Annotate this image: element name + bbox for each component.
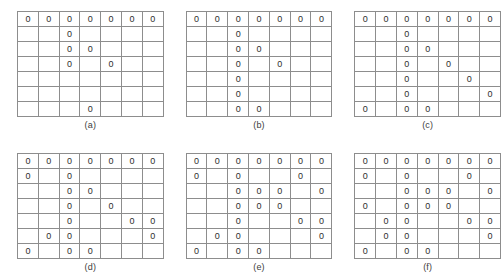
grid-cell-marked: 0 (355, 154, 376, 169)
grid-cell-marked: 0 (417, 154, 438, 169)
grid-cell-empty (459, 57, 480, 72)
grid-cell-empty (18, 199, 39, 214)
grid-cell-empty (101, 72, 122, 87)
grid-cell-marked: 0 (396, 244, 417, 259)
figure-panel-e: 00000000000000000000000000 (e) (186, 153, 333, 272)
grid-cell-marked: 0 (101, 199, 122, 214)
grid-cell-empty (186, 199, 207, 214)
grid-cell-empty (121, 169, 142, 184)
grid-cell-empty (121, 199, 142, 214)
grid-row: 0 (186, 27, 332, 42)
grid-cell-empty (142, 72, 163, 87)
grid-cell-marked: 0 (396, 154, 417, 169)
grid-cell-marked: 0 (228, 102, 249, 117)
grid-cell-empty (80, 57, 101, 72)
grid-cell-empty (269, 229, 290, 244)
grid-cell-empty (269, 169, 290, 184)
grid-cell-marked: 0 (18, 244, 39, 259)
grid-row: 0000 (355, 199, 501, 214)
grid-row: 0000000 (18, 12, 164, 27)
grid-cell-empty (249, 72, 270, 87)
grid-row: 0000000 (186, 12, 332, 27)
grid-cell-empty (480, 27, 501, 42)
grid-cell-marked: 0 (59, 214, 80, 229)
grid-cell-marked: 0 (228, 42, 249, 57)
grid-cell-marked: 0 (80, 244, 101, 259)
grid-cell-marked: 0 (228, 27, 249, 42)
figure-caption-d: (d) (85, 262, 97, 272)
grid-cell-empty (101, 229, 122, 244)
grid-cell-empty (18, 27, 39, 42)
grid-cell-empty (142, 244, 163, 259)
figure-panel-d: 0000000000000000000000 (d) (17, 153, 164, 272)
grid-cell-marked: 0 (376, 214, 397, 229)
grid-d: 0000000000000000000000 (17, 153, 164, 259)
grid-f: 0000000000000000000000000000 (354, 153, 501, 259)
grid-row: 00 (18, 57, 164, 72)
figure-caption-c: (c) (422, 120, 433, 130)
grid-cell-marked: 0 (396, 184, 417, 199)
grid-cell-marked: 0 (438, 57, 459, 72)
grid-cell-marked: 0 (18, 154, 39, 169)
grid-cell-marked: 0 (80, 102, 101, 117)
grid-cell-empty (311, 72, 332, 87)
grid-row: 00 (18, 42, 164, 57)
grid-cell-marked: 0 (38, 12, 59, 27)
grid-cell-empty (269, 214, 290, 229)
grid-cell-marked: 0 (228, 229, 249, 244)
grid-cell-marked: 0 (290, 12, 311, 27)
grid-cell-marked: 0 (101, 57, 122, 72)
figure-caption-a: (a) (85, 120, 97, 130)
grid-cell-empty (459, 42, 480, 57)
grid-cell-empty (417, 57, 438, 72)
grid-cell-empty (18, 184, 39, 199)
grid-cell-marked: 0 (207, 229, 228, 244)
grid-cell-empty (142, 57, 163, 72)
grid-cell-marked: 0 (480, 229, 501, 244)
grid-row: 000 (355, 244, 501, 259)
grid-cell-marked: 0 (396, 102, 417, 117)
grid-cell-marked: 0 (396, 87, 417, 102)
figure-caption-f: (f) (423, 262, 432, 272)
grid-cell-empty (376, 169, 397, 184)
grid-cell-empty (290, 244, 311, 259)
grid-cell-empty (59, 102, 80, 117)
grid-cell-marked: 0 (290, 154, 311, 169)
grid-cell-empty (249, 169, 270, 184)
grid-cell-marked: 0 (459, 169, 480, 184)
grid-cell-empty (80, 27, 101, 42)
grid-cell-marked: 0 (355, 12, 376, 27)
grid-cell-empty (355, 57, 376, 72)
grid-cell-empty (480, 169, 501, 184)
grid-cell-marked: 0 (290, 169, 311, 184)
grid-cell-empty (186, 229, 207, 244)
grid-cell-empty (269, 244, 290, 259)
grid-cell-empty (186, 27, 207, 42)
grid-cell-marked: 0 (228, 72, 249, 87)
grid-cell-empty (438, 214, 459, 229)
grid-cell-empty (38, 184, 59, 199)
grid-cell-marked: 0 (459, 214, 480, 229)
grid-cell-empty (207, 214, 228, 229)
grid-e: 00000000000000000000000000 (186, 153, 333, 259)
grid-cell-marked: 0 (311, 214, 332, 229)
grid-cell-empty (290, 229, 311, 244)
grid-cell-empty (355, 72, 376, 87)
grid-cell-empty (186, 102, 207, 117)
grid-cell-marked: 0 (228, 87, 249, 102)
grid-cell-marked: 0 (396, 12, 417, 27)
grid-cell-empty (269, 72, 290, 87)
grid-cell-empty (459, 184, 480, 199)
grid-cell-empty (121, 229, 142, 244)
grid-row: 0 (18, 27, 164, 42)
grid-cell-marked: 0 (59, 27, 80, 42)
grid-cell-marked: 0 (311, 12, 332, 27)
grid-cell-marked: 0 (80, 12, 101, 27)
grid-cell-empty (207, 199, 228, 214)
grid-cell-empty (355, 87, 376, 102)
grid-cell-marked: 0 (80, 184, 101, 199)
grid-cell-marked: 0 (480, 12, 501, 27)
grid-cell-empty (101, 27, 122, 42)
grid-cell-marked: 0 (59, 199, 80, 214)
grid-cell-empty (249, 214, 270, 229)
